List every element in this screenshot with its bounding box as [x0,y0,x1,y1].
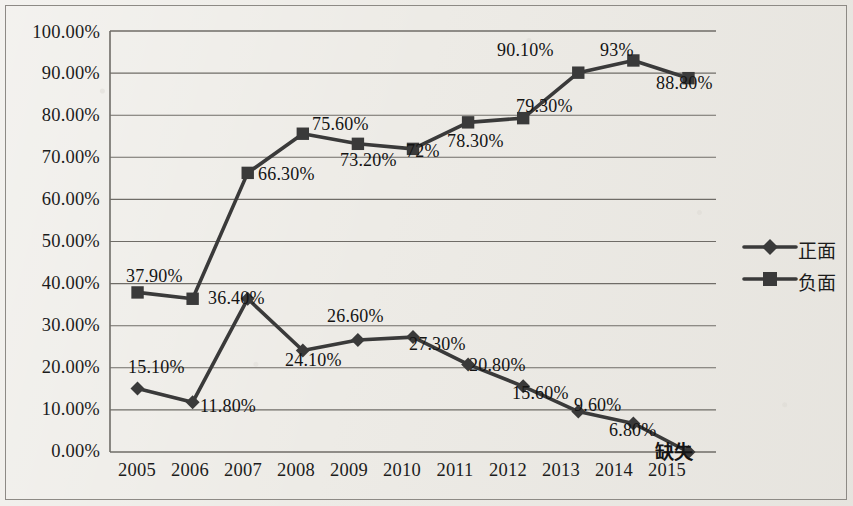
legend-marker-positive [762,239,778,255]
line-chart-plot [0,0,853,506]
y-axis-tick-10: 10.00% [4,399,100,420]
data-point-negative-2007 [242,167,254,179]
data-label-negative-2007: 66.30% [258,164,315,185]
data-point-positive-2006 [186,395,200,409]
y-axis-tick-0: 0.00% [4,441,100,462]
data-label-negative-2012: 79.30% [516,96,573,117]
x-axis-tick-2007: 2007 [213,460,273,481]
data-label-positive-2015-missing: 缺失 [655,437,693,464]
data-label-positive-2012: 15.60% [512,383,569,404]
series-line-positive [138,299,689,452]
data-point-negative-2005 [131,286,143,298]
y-axis-tick-40: 40.00% [4,273,100,294]
legend-label-negative: 负面 [798,268,836,295]
data-label-negative-2010: 72% [406,141,440,162]
data-label-positive-2014: 6.80% [609,420,657,441]
data-label-negative-2008: 75.60% [312,114,369,135]
y-axis-tick-20: 20.00% [4,357,100,378]
data-label-negative-2011: 78.30% [447,131,504,152]
data-point-positive-2009 [351,333,365,347]
x-axis-tick-2009: 2009 [319,460,379,481]
y-axis-tick-70: 70.00% [4,147,100,168]
x-axis-tick-2010: 2010 [372,460,432,481]
data-label-positive-2013: 9.60% [574,395,622,416]
data-point-negative-2013 [572,66,584,78]
data-label-positive-2007: 36.40% [208,288,265,309]
data-label-positive-2009: 26.60% [327,306,384,327]
y-axis-tick-100: 100.00% [4,22,100,43]
x-axis-tick-2012: 2012 [478,460,538,481]
data-label-positive-2008: 24.10% [285,350,342,371]
y-axis-tick-30: 30.00% [4,315,100,336]
data-point-negative-2009 [352,138,364,150]
x-axis-tick-2008: 2008 [266,460,326,481]
legend-label-positive: 正面 [798,236,836,263]
chart-figure: 100.00% 90.00% 80.00% 70.00% 60.00% 50.0… [0,0,853,506]
data-label-negative-2015: 88.80% [656,73,713,94]
data-point-positive-2005 [131,381,145,395]
y-axis-tick-80: 80.00% [4,105,100,126]
data-label-positive-2011: 20.80% [469,355,526,376]
y-axis-tick-90: 90.00% [4,63,100,84]
data-label-negative-2005: 37.90% [126,266,183,287]
x-axis-tick-2006: 2006 [160,460,220,481]
data-point-negative-2008 [297,128,309,140]
y-axis-tick-60: 60.00% [4,189,100,210]
data-label-positive-2005: 15.10% [128,357,185,378]
x-axis-tick-2014: 2014 [584,460,644,481]
data-point-negative-2011 [462,116,474,128]
y-axis-tick-50: 50.00% [4,231,100,252]
data-point-negative-2006 [186,293,198,305]
x-axis-tick-2013: 2013 [531,460,591,481]
series-line-negative [138,61,689,299]
data-label-negative-2009: 73.20% [340,150,397,171]
x-axis-tick-2005: 2005 [107,460,167,481]
data-label-positive-2010: 27.30% [409,334,466,355]
data-label-positive-2006: 11.80% [200,396,256,417]
data-label-negative-2013: 90.10% [497,40,554,61]
legend-marker-negative [763,272,777,286]
x-axis-tick-2011: 2011 [425,460,485,481]
data-label-negative-2014: 93% [600,40,634,61]
